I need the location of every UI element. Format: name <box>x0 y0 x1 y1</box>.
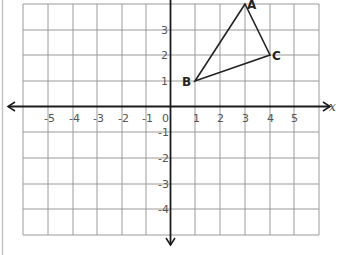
vertex-b-label: B <box>182 75 191 89</box>
y-tick: -1 <box>158 126 169 139</box>
x-axis-label: x <box>329 100 336 114</box>
x-axis <box>8 102 330 111</box>
x-tick: -4 <box>69 112 80 125</box>
x-tick: -1 <box>142 112 153 125</box>
x-tick: 5 <box>291 112 298 125</box>
vertex-a-label: A <box>247 0 257 12</box>
triangle-abc <box>195 4 270 81</box>
y-tick: -2 <box>158 152 169 165</box>
vertex-c-label: C <box>272 49 281 63</box>
y-tick: -4 <box>158 203 169 216</box>
x-tick: -5 <box>44 112 55 125</box>
coordinate-plane: A B C x -5 -4 -3 -2 -1 0 1 2 3 4 5 3 2 1… <box>0 0 338 255</box>
y-tick: 3 <box>161 24 168 37</box>
x-tick: 1 <box>193 112 200 125</box>
x-tick: 4 <box>267 112 274 125</box>
origin-label: 0 <box>162 112 169 125</box>
x-tick: 2 <box>217 112 224 125</box>
x-tick: -2 <box>118 112 129 125</box>
y-tick: 2 <box>161 49 168 62</box>
x-tick: 3 <box>242 112 249 125</box>
x-tick: -3 <box>93 112 104 125</box>
y-tick: 1 <box>161 75 168 88</box>
y-tick: -3 <box>158 178 169 191</box>
